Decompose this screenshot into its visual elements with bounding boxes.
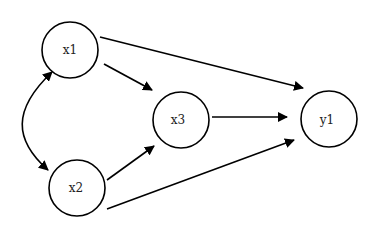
edge-x1-x2 (22, 72, 52, 170)
path-diagram: x1 x2 x3 y1 (0, 0, 375, 232)
node-x3-label: x3 (171, 113, 185, 127)
node-y1-label: y1 (319, 113, 334, 127)
edge-x2-x3 (107, 146, 154, 180)
node-x2: x2 (49, 160, 105, 216)
node-x2-label: x2 (69, 181, 83, 195)
diagram-canvas: x1 x2 x3 y1 (0, 0, 375, 232)
edge-x2-y1 (107, 140, 294, 209)
node-x1-label: x1 (63, 43, 77, 57)
node-y1: y1 (301, 91, 357, 147)
node-x1: x1 (42, 22, 98, 78)
edge-x1-x3 (104, 64, 152, 90)
node-x3: x3 (153, 92, 209, 148)
edge-x1-y1 (100, 37, 303, 88)
